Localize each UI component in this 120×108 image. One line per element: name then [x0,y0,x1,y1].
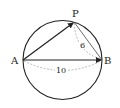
diagram-canvas: P A B 6 10 [0,0,120,108]
point-label-a: A [10,55,19,66]
length-label-pb: 6 [80,41,85,50]
vector-ap [23,23,73,60]
length-label-ab: 10 [56,66,66,75]
point-label-b: B [104,55,111,66]
point-label-p: P [72,8,79,19]
